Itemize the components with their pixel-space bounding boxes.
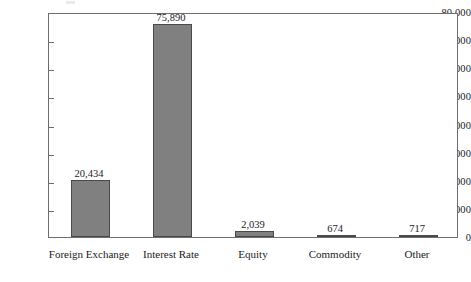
bar-value-label: 75,890 <box>157 13 186 24</box>
bar-chart: 010,00020,00030,00040,00050,00060,00070,… <box>0 0 471 282</box>
x-axis-tick-label: Commodity <box>309 248 362 260</box>
bar-value-label: 674 <box>327 224 343 235</box>
bar <box>317 235 356 238</box>
bar-value-label: 717 <box>409 224 425 235</box>
x-axis-tick-label: Equity <box>238 248 267 260</box>
x-axis-tick-label: Interest Rate <box>143 248 199 260</box>
y-axis-tick-mark <box>49 70 54 71</box>
y-axis-tick-mark <box>49 127 54 128</box>
plot-area <box>48 13 458 238</box>
x-axis-tick-label: Foreign Exchange <box>49 248 129 260</box>
bar <box>235 231 274 237</box>
bar <box>399 235 438 238</box>
y-axis-tick-mark <box>49 42 54 43</box>
scan-artifact <box>66 1 75 4</box>
bar <box>71 180 110 237</box>
y-axis-tick-mark <box>49 98 54 99</box>
bar-value-label: 20,434 <box>75 169 104 180</box>
x-axis-tick-label: Other <box>404 248 429 260</box>
y-axis-tick-mark <box>49 155 54 156</box>
bar-value-label: 2,039 <box>241 220 265 231</box>
bar <box>153 24 192 237</box>
y-axis-tick-mark <box>49 211 54 212</box>
y-axis-tick-mark <box>49 183 54 184</box>
